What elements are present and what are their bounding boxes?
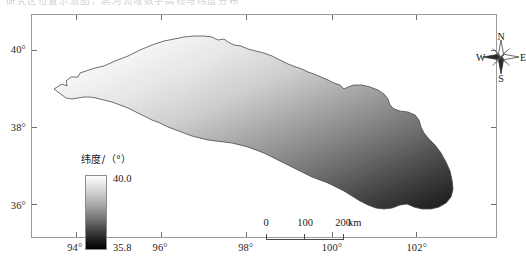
caption-sliver: 研究区位置示意图，黑河流域数字高程与纬度分布 xyxy=(6,0,296,5)
tick-top-98 xyxy=(246,15,247,20)
tick-left-40 xyxy=(32,50,37,51)
scale-bar-midtick xyxy=(304,234,305,240)
scale-bar-labels: 0 100 200 km xyxy=(266,217,370,231)
y-tick-label-38: 38° xyxy=(2,121,26,132)
scale-bar-rule xyxy=(266,234,344,240)
tick-bottom-98 xyxy=(246,232,247,237)
x-tick-label-94: 94° xyxy=(67,242,82,253)
tick-top-94 xyxy=(76,15,77,20)
tick-bottom-96 xyxy=(161,232,162,237)
tick-bottom-94 xyxy=(76,232,77,237)
tick-top-96 xyxy=(161,15,162,20)
scale-tick-100: 100 xyxy=(297,217,313,228)
tick-top-100 xyxy=(332,15,333,20)
y-tick-label-36: 36° xyxy=(2,200,26,211)
tick-right-36 xyxy=(491,204,496,205)
compass-west-label: W xyxy=(476,52,485,63)
compass-east-label: E xyxy=(520,52,526,63)
legend-colorbar xyxy=(85,175,107,250)
x-tick-label-98: 98° xyxy=(238,242,253,253)
scale-bar: 0 100 200 km xyxy=(266,217,370,231)
tick-bottom-102 xyxy=(416,232,417,237)
legend-max-value: 40.0 xyxy=(113,173,131,184)
tick-right-38 xyxy=(491,127,496,128)
compass-north-label: N xyxy=(497,31,504,42)
tick-left-38 xyxy=(32,127,37,128)
tick-left-36 xyxy=(32,204,37,205)
compass-rose: N S W E xyxy=(477,32,525,82)
scale-unit-label: km xyxy=(348,217,361,228)
x-tick-label-100: 100° xyxy=(322,242,343,253)
scale-tick-0: 0 xyxy=(263,217,268,228)
tick-top-102 xyxy=(416,15,417,20)
x-tick-label-96: 96° xyxy=(152,242,167,253)
x-tick-label-102: 102° xyxy=(406,242,427,253)
compass-south-label: S xyxy=(498,73,504,84)
legend-min-value: 35.8 xyxy=(113,242,131,253)
legend-title: 纬度/（°） xyxy=(81,151,132,166)
map-frame: 纬度/（°） 40.0 35.8 0 100 200 km xyxy=(31,14,497,238)
y-tick-label-40: 40° xyxy=(2,43,26,54)
